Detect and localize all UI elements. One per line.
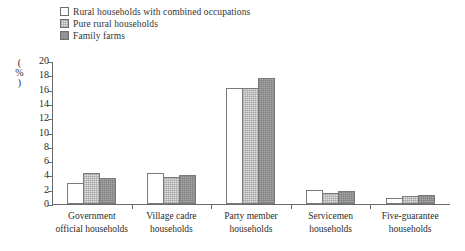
y-tick-label: 20 [39,55,49,66]
bar-series-2-cat-1[interactable] [179,175,196,204]
bar-series-1-cat-1[interactable] [163,177,180,204]
legend-label-series-2: Family farms [73,31,125,41]
bar-group-0 [52,61,132,204]
bar-series-0-cat-2[interactable] [226,88,243,204]
x-category-label-0: Government official households [52,210,132,235]
bar-group-4 [370,61,450,204]
bar-group-3 [291,61,371,204]
legend-item-series-2: Family farms [60,30,250,41]
x-category-label-4: Five-guarantee households [370,210,450,235]
bar-series-1-cat-4[interactable] [402,196,419,204]
y-tick-label: 16 [39,84,49,95]
legend-swatch-icon-series-2 [60,31,69,40]
legend-item-series-0: Rural households with combined occupatio… [60,6,250,17]
y-tick-label: 10 [39,127,49,138]
legend-label-series-1: Pure rural households [73,19,158,29]
bar-series-1-cat-0[interactable] [83,173,100,204]
bar-series-0-cat-1[interactable] [147,173,164,204]
y-tick-label: 4 [44,169,49,180]
y-tick-label: 6 [44,155,49,166]
bar-chart: Rural households with combined occupatio… [0,0,465,251]
x-tick-3 [370,205,371,209]
x-category-label-3: Servicemen households [291,210,371,235]
x-category-label-2: Party member households [211,210,291,235]
bar-series-2-cat-3[interactable] [338,191,355,204]
y-axis-unit-label: (%) [14,57,25,87]
bar-series-0-cat-4[interactable] [386,198,403,204]
bar-series-1-cat-3[interactable] [322,193,339,204]
bar-series-0-cat-3[interactable] [306,190,323,204]
x-tick-2 [291,205,292,209]
y-tick-label: 2 [44,184,49,195]
bar-series-2-cat-2[interactable] [258,78,275,204]
y-tick-label: 14 [39,98,49,109]
bar-group-2 [211,61,291,204]
bar-series-0-cat-0[interactable] [67,183,84,204]
plot-area: 02468101214161820 [52,62,450,205]
bar-group-1 [132,61,212,204]
x-axis-line [52,204,450,205]
bar-series-2-cat-0[interactable] [99,178,116,204]
legend-swatch-icon-series-1 [60,19,69,28]
legend-label-series-0: Rural households with combined occupatio… [73,7,250,17]
x-category-label-1: Village cadre households [132,210,212,235]
chart-legend: Rural households with combined occupatio… [60,6,250,41]
bar-series-1-cat-2[interactable] [242,88,259,204]
x-tick-1 [211,205,212,209]
x-tick-0 [132,205,133,209]
legend-item-series-1: Pure rural households [60,18,250,29]
y-tick-label: 18 [39,69,49,80]
bar-series-2-cat-4[interactable] [418,195,435,204]
y-tick-label: 0 [44,198,49,209]
legend-swatch-icon-series-0 [60,7,69,16]
y-tick-label: 12 [39,112,49,123]
y-tick-label: 8 [44,141,49,152]
